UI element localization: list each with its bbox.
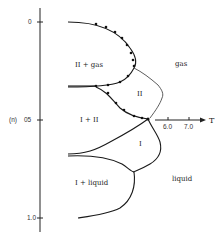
y-axis-label: (n) <box>9 116 17 124</box>
boundary-I-II-lower <box>68 119 148 154</box>
data-point <box>123 109 126 112</box>
data-point <box>127 75 130 78</box>
x-tick-label-6: 6.0 <box>163 123 172 130</box>
data-point <box>141 117 144 120</box>
data-point <box>119 81 122 84</box>
region-label-I-liquid: I + liquid <box>75 179 109 187</box>
x-axis-label: T <box>209 116 215 125</box>
boundary-I-liquid-upper <box>68 156 134 172</box>
region-label-I-II: I + II <box>80 116 99 124</box>
data-point <box>132 59 135 62</box>
y-tick-label-0: 0 <box>28 18 32 25</box>
x-tick-label-7: 7.0 <box>184 123 193 130</box>
x-axis-arrowhead <box>200 118 206 123</box>
boundary-I-liquid-right <box>134 119 161 172</box>
data-point <box>114 31 117 34</box>
y-tick-label-0-5: 05 <box>24 116 32 123</box>
data-point <box>133 115 136 118</box>
tricritical-point <box>146 117 149 120</box>
region-label-II: II <box>137 90 143 98</box>
region-label-I: I <box>139 140 142 148</box>
data-point <box>95 23 98 26</box>
region-label-gas: gas <box>175 60 188 68</box>
boundary-II-gas-lower <box>68 68 134 87</box>
data-point <box>115 102 118 105</box>
phase-diagram: 0 05 1.0 (n) 6.0 7.0 T <box>0 0 216 235</box>
data-point <box>107 84 110 87</box>
region-label-liquid: liquid <box>172 175 193 183</box>
data-point <box>130 52 133 55</box>
data-point <box>95 85 98 88</box>
data-point <box>133 65 136 68</box>
region-label-II-gas: II + gas <box>75 61 104 69</box>
data-point <box>126 44 129 47</box>
data-point <box>105 26 108 29</box>
data-point <box>107 92 110 95</box>
data-points <box>95 23 150 121</box>
data-point <box>121 37 124 40</box>
y-tick-label-1-0: 1.0 <box>27 214 36 221</box>
